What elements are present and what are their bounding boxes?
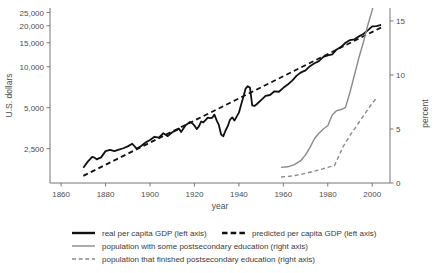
chart-canvas: 18601880190019201940196019802000 2,5005,… xyxy=(0,0,439,273)
x-tick-label: 1960 xyxy=(274,190,292,199)
y-left-tick-label: 10,000 xyxy=(20,63,45,72)
x-tick-label: 1980 xyxy=(319,190,337,199)
series-line-3 xyxy=(281,98,377,177)
series-line-2 xyxy=(281,0,377,167)
y-axis-right-title: percent xyxy=(420,99,430,128)
legend-label: predicted per capita GDP (left axis) xyxy=(252,229,377,238)
y-right-tick-label: 0 xyxy=(396,179,401,188)
series-layer xyxy=(83,0,381,177)
chart-figure: 18601880190019201940196019802000 2,5005,… xyxy=(0,0,439,273)
x-tick-label: 1860 xyxy=(52,190,70,199)
y-axis-left: 2,5005,00010,00015,00020,00025,000 xyxy=(20,9,50,154)
x-tick-label: 1940 xyxy=(230,190,248,199)
y-right-tick-label: 5 xyxy=(396,125,401,134)
x-axis: 18601880190019201940196019802000 xyxy=(52,183,381,199)
legend-label: population with some postsecondary educa… xyxy=(102,242,308,251)
legend-label: population that finished postsecondary e… xyxy=(102,255,315,264)
x-axis-title: year xyxy=(212,201,229,211)
y-left-tick-label: 2,500 xyxy=(24,145,45,154)
x-tick-label: 1920 xyxy=(186,190,204,199)
series-line-0 xyxy=(83,25,381,168)
y-right-tick-label: 15 xyxy=(396,17,405,26)
y-axis-right: 051015 xyxy=(390,17,405,188)
y-left-tick-label: 20,000 xyxy=(20,22,45,31)
chart-legend: real per capita GDP (left axis)predicted… xyxy=(72,229,377,264)
y-left-tick-label: 25,000 xyxy=(20,9,45,18)
y-axis-left-title: U.S. dollars xyxy=(4,74,14,118)
x-tick-label: 1880 xyxy=(97,190,115,199)
x-tick-label: 2000 xyxy=(363,190,381,199)
y-right-tick-label: 10 xyxy=(396,71,405,80)
legend-label: real per capita GDP (left axis) xyxy=(102,229,207,238)
y-left-tick-label: 15,000 xyxy=(20,39,45,48)
x-tick-label: 1900 xyxy=(141,190,159,199)
y-left-tick-label: 5,000 xyxy=(24,104,45,113)
